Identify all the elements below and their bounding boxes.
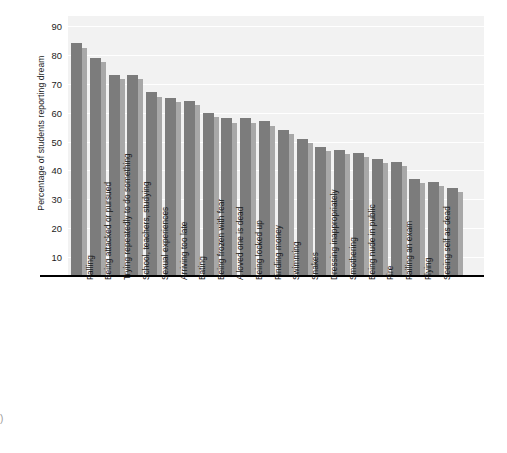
x-tick-label: School, teachers, studying: [141, 181, 151, 280]
x-tick-label: A loved one is dead: [235, 207, 245, 280]
x-tick-label: Trying repeatedly to do something: [122, 153, 132, 280]
x-tick-label: Swimming: [291, 241, 301, 280]
x-tick-label: Being locked up: [254, 220, 264, 280]
x-tick-label: Dressing inappropriately: [329, 189, 339, 280]
x-tick-label: Eating: [197, 256, 207, 280]
x-tick-label: Failing an exam: [404, 221, 414, 280]
x-tick-label: Falling: [85, 255, 95, 280]
x-tick-label: Smothering: [348, 237, 358, 280]
x-tick-label: Fire: [385, 266, 395, 281]
corner-artifact: ): [0, 413, 3, 424]
x-tick-label: Finding money: [273, 225, 283, 280]
x-axis-tick-labels: FallingBeing attacked or pursuedTrying r…: [0, 0, 507, 453]
x-tick-label: Arriving too late: [179, 222, 189, 281]
x-tick-label: Seeing self as dead: [442, 206, 452, 280]
bar-chart-figure: Percentage of students reporting dream 9…: [0, 0, 507, 453]
x-tick-label: Snakes: [310, 252, 320, 280]
x-tick-label: Being attacked or pursued: [103, 182, 113, 280]
x-tick-label: Being frozen with fear: [216, 199, 226, 280]
x-tick-label: Flying: [423, 258, 433, 280]
x-tick-label: Sexual experiences: [160, 207, 170, 280]
x-tick-label: Being nude in public: [367, 204, 377, 280]
